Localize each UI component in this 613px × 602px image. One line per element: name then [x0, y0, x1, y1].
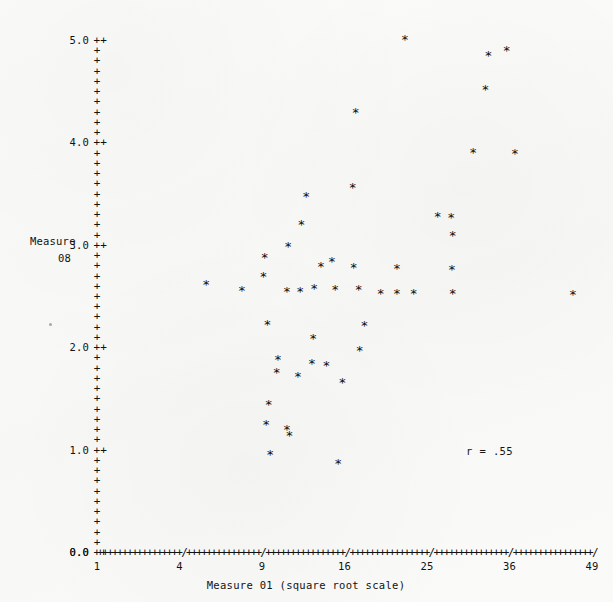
plot-canvas: Measure 08 ++0.0+++++++++++1.0++++++++++…: [0, 0, 613, 602]
data-point-marker: *: [296, 284, 304, 297]
data-point-marker: *: [273, 365, 281, 378]
data-point-marker: *: [361, 318, 369, 331]
data-point-marker: *: [294, 369, 302, 382]
data-point-marker: *: [310, 281, 318, 294]
data-point-marker: *: [265, 397, 273, 410]
data-point-marker: *: [285, 429, 293, 442]
x-axis-tick-label: 1: [94, 561, 101, 572]
data-point-marker: *: [308, 356, 316, 369]
x-axis-origin-label: 0.0: [69, 547, 89, 558]
data-point-marker: *: [262, 418, 270, 431]
data-point-marker: *: [350, 261, 358, 274]
correlation-annotation: r = .55: [466, 446, 513, 457]
y-axis-tick-label: 1.0: [69, 444, 89, 455]
data-point-marker: *: [449, 228, 457, 241]
x-axis-title: Measure 01 (square root scale): [207, 580, 406, 591]
data-point-marker: *: [410, 286, 418, 299]
scan-speck-artifact: [49, 323, 52, 326]
data-point-marker: *: [401, 32, 409, 45]
x-axis-tick-label: 16: [338, 561, 351, 572]
x-axis-tick-label: 9: [259, 561, 266, 572]
y-axis-title-line2: 08: [58, 253, 71, 264]
data-point-marker: *: [356, 344, 364, 357]
x-axis-tick-label: 36: [503, 561, 516, 572]
data-point-marker: *: [377, 286, 385, 299]
y-axis-tick-label: 2.0: [69, 342, 89, 353]
data-point-marker: *: [449, 286, 457, 299]
data-point-marker: *: [485, 49, 493, 62]
data-point-marker: *: [355, 282, 363, 295]
data-point-marker: *: [264, 317, 272, 330]
y-axis-tick-label: 5.0: [69, 35, 89, 46]
data-point-marker: *: [283, 284, 291, 297]
data-point-marker: *: [447, 211, 455, 224]
x-axis-tick-label: 49: [585, 561, 598, 572]
data-point-marker: *: [284, 239, 292, 252]
data-point-marker: *: [331, 282, 339, 295]
data-point-marker: *: [352, 105, 360, 118]
data-point-marker: *: [448, 263, 456, 276]
data-point-marker: *: [309, 331, 317, 344]
x-axis-tick-label: 4: [176, 561, 183, 572]
x-axis-tick-label: 25: [420, 561, 433, 572]
data-point-marker: *: [393, 286, 401, 299]
data-point-marker: *: [334, 456, 342, 469]
data-point-marker: *: [259, 269, 267, 282]
data-point-marker: *: [511, 146, 519, 159]
data-point-marker: *: [261, 251, 269, 264]
y-axis-major-tick: ++: [94, 35, 107, 46]
data-point-marker: *: [302, 189, 310, 202]
data-point-marker: *: [469, 145, 477, 158]
y-axis-tick-label: 4.0: [69, 137, 89, 148]
data-point-marker: *: [202, 277, 210, 290]
y-axis-tick-label: 3.0: [69, 240, 89, 251]
data-point-marker: *: [323, 358, 331, 371]
data-point-marker: *: [434, 210, 442, 223]
data-point-marker: *: [482, 83, 490, 96]
data-point-marker: *: [393, 262, 401, 275]
data-point-marker: *: [339, 376, 347, 389]
data-point-marker: *: [298, 218, 306, 231]
data-point-marker: *: [238, 283, 246, 296]
data-point-marker: *: [328, 255, 336, 268]
x-axis-rule: +++++++++++++++++/+++++++++++++++/++++++…: [97, 547, 597, 558]
data-point-marker: *: [317, 260, 325, 273]
data-point-marker: *: [349, 181, 357, 194]
data-point-marker: *: [569, 287, 577, 300]
data-point-marker: *: [503, 44, 511, 57]
data-point-marker: *: [266, 447, 274, 460]
